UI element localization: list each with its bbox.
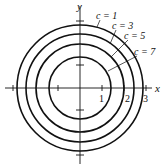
x-tick-label-3: 3 — [143, 93, 148, 104]
x-tick-label-2: 2 — [125, 93, 130, 104]
x-tick-label-1: 1 — [99, 93, 104, 104]
level-curves-plot: y x 1 2 3 c = 1 c = 3 c = 5 c = 7 — [0, 0, 164, 167]
curve-label-c7: c = 7 — [134, 46, 156, 57]
x-axis-label: x — [154, 82, 160, 94]
curve-label-c5: c = 5 — [124, 30, 145, 41]
y-axis-label: y — [76, 0, 82, 12]
